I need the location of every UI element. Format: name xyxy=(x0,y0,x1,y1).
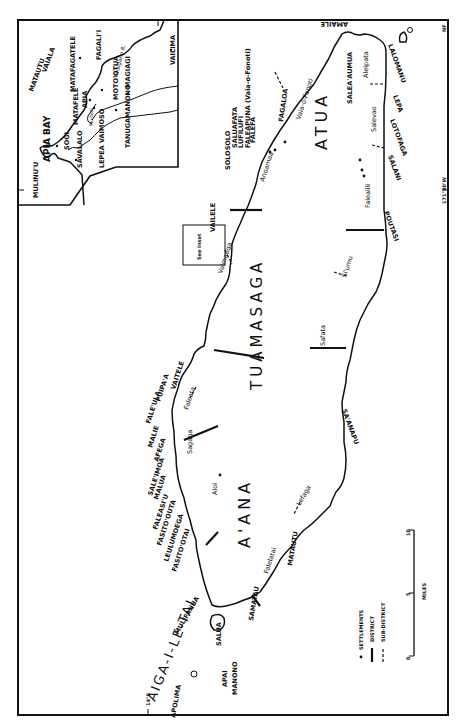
inset-label-apia-bay: APIA BAY xyxy=(42,115,52,162)
district-boundaries xyxy=(184,210,384,606)
district-label-aana: A'ANA xyxy=(235,479,254,548)
subdistrict-falelatai: Falelatai xyxy=(262,546,278,574)
inset-label-sogi: SOGI xyxy=(63,132,71,150)
subdistrict-safata: Safata xyxy=(319,325,327,346)
subdistrict-falealili: Falealili xyxy=(364,184,372,208)
district-label-atua: ATUA xyxy=(312,92,331,150)
inset-label-apia: APIA xyxy=(81,91,89,108)
label-vailele: VAILELE xyxy=(209,203,217,232)
subdistrict-sagaga: Sagaga xyxy=(186,430,194,454)
inset-label-matafagatele: MATAFAGATELE xyxy=(69,36,77,92)
latitude-label: 14°S xyxy=(145,693,151,706)
upolu-district-map: MULINU'U APIA BAY MATAUTU VAIALA MATAFAG… xyxy=(0,0,468,726)
label-lotofaga: LOTOFAGA xyxy=(388,118,409,157)
label-falefa: FALEFA xyxy=(249,117,257,143)
scale-tick-5: 5 xyxy=(405,592,411,596)
label-lepa: LEPA xyxy=(391,94,405,113)
subdistrict-siumu: Si'umu xyxy=(340,255,354,279)
subdistrict-faleata: Faleata xyxy=(182,386,197,411)
label-saleaaumua: SALEA'AUMUA xyxy=(346,52,354,104)
longitude-label: 171°40'W xyxy=(441,177,447,204)
inset-label-savalalo: SAVALALO xyxy=(76,130,84,168)
label-salani: SALANI xyxy=(386,154,403,182)
scale-tick-0: 0 xyxy=(405,656,411,660)
see-inset-box xyxy=(183,225,225,265)
subdistrict-salevao: Salevao xyxy=(370,106,378,132)
label-matautu: MATAUTU xyxy=(286,531,300,567)
label-apai: APAI xyxy=(221,670,229,687)
subdistrict-lefaga: Lefaga xyxy=(295,484,313,507)
settlement-symbol xyxy=(360,656,363,659)
inset-label-tanugamanono: TANUGAMANONO xyxy=(124,84,132,148)
legend-subdistrict: SUB-DISTRICT xyxy=(380,602,386,642)
inset-label-mulinuu: MULINU'U xyxy=(32,162,40,198)
subdistrict-aloi: Aloi xyxy=(211,483,219,495)
map-legend: SETTLEMENTS DISTRICT SUB-DISTRICT xyxy=(358,602,386,662)
label-salua: SALUA xyxy=(215,622,223,646)
legend-settlements: SETTLEMENTS xyxy=(358,609,364,650)
see-inset-note: See Inset xyxy=(196,233,202,260)
inset-label-vaimoso: VAIMOSO xyxy=(98,108,106,143)
scale-unit: MILES xyxy=(421,583,427,600)
apia-inset: MULINU'U APIA BAY MATAUTU VAIALA MATAFAG… xyxy=(18,20,178,205)
label-manono: MANONO xyxy=(231,661,239,695)
scale-bar: 0 5 10 MILES xyxy=(405,529,427,660)
label-fagaloa: FAGALOA xyxy=(277,88,290,122)
label-poutasi: POUTASI xyxy=(382,210,400,242)
label-apolima: APOLIMA xyxy=(169,684,183,718)
subdistrict-aleipata: Aleipata xyxy=(362,51,370,78)
inset-label-mulivai: Mulivai xyxy=(88,108,94,126)
label-lalomanu: LALOMANU xyxy=(386,43,407,84)
label-saanapu: SA'ANAPU xyxy=(340,408,360,446)
corner-mark: NF xyxy=(441,24,447,32)
label-amaile: AMAILE xyxy=(320,20,348,28)
scale-tick-10: 10 xyxy=(405,529,411,536)
inset-label-matafele: MATAFELE xyxy=(72,88,80,125)
inset-label-fagalii: FAGALI'I xyxy=(95,30,103,60)
inset-label-magiagi: MAGIAGI xyxy=(124,56,132,88)
legend-district: DISTRICT xyxy=(369,616,375,642)
inset-label-vailima: VAILIMA xyxy=(169,35,177,65)
label-puipaa: PUIPA'A xyxy=(154,373,170,403)
inset-label-lepea: LEPEA xyxy=(98,145,106,168)
label-vaitele: VAITELE xyxy=(169,360,186,391)
district-label-tuamasaga: TUAMASAGA xyxy=(248,259,266,391)
